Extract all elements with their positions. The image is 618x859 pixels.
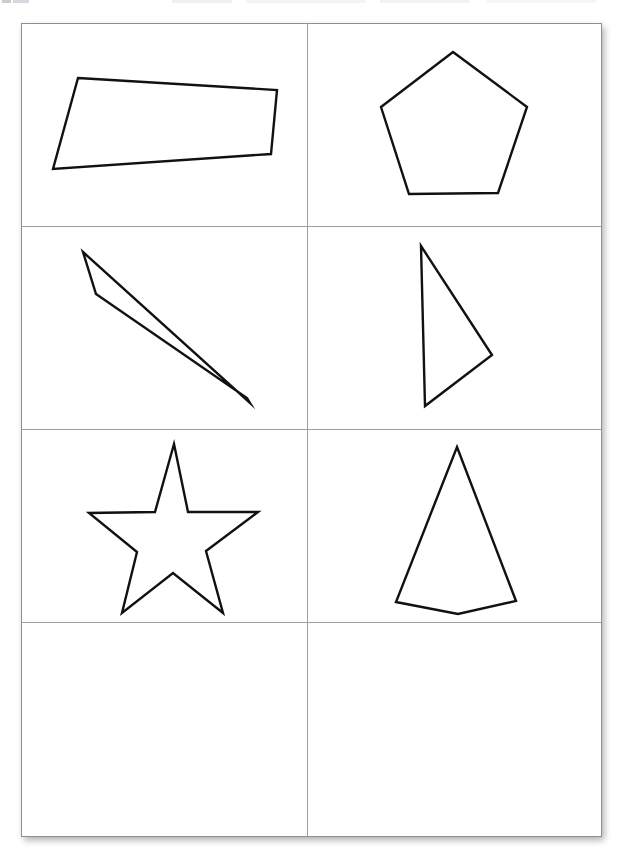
grid-cell-r1c2[interactable] xyxy=(307,23,601,226)
grid-cell-r1c1[interactable] xyxy=(21,23,307,226)
top-edge-artifact xyxy=(0,0,618,10)
grid-cell-r3c1[interactable] xyxy=(21,429,307,622)
artifact-smudge xyxy=(172,0,232,3)
artifact-smudge xyxy=(380,0,470,3)
artifact-smudge xyxy=(246,0,366,3)
artifact-smudge xyxy=(13,0,29,3)
grid-cell-r3c2[interactable] xyxy=(307,429,601,622)
grid-cell-r2c1[interactable] xyxy=(21,226,307,429)
grid-cell-r4c1[interactable] xyxy=(21,622,307,836)
grid-cell-r4c2[interactable] xyxy=(307,622,601,836)
artifact-smudge xyxy=(2,0,11,3)
artifact-smudge xyxy=(486,0,596,3)
grid-cell-r2c2[interactable] xyxy=(307,226,601,429)
